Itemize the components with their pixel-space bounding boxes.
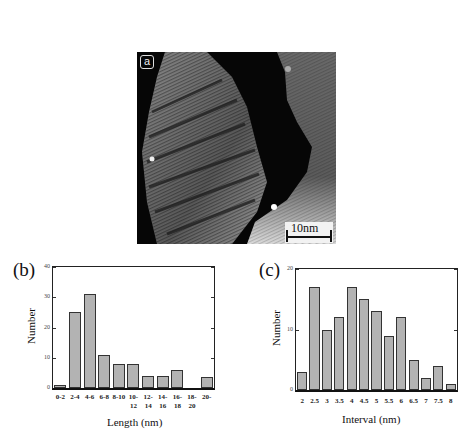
bar-3 [322,330,332,391]
ytick-label: 0 [36,384,50,390]
bar-20- [201,377,213,388]
bar-6-8 [98,355,110,388]
ytick-label: 10 [36,354,50,360]
scale-bar [287,236,331,238]
bar-5.5 [384,336,394,390]
bar-8-10 [113,364,125,388]
bar-2 [297,372,307,390]
bar-16-18 [171,370,183,388]
panel-c-xlabel: Interval (nm) [342,413,400,425]
scale-bar-cap-right [330,230,332,242]
xtick-label: 20- [195,393,219,402]
bar-14-16 [157,376,169,388]
stm-image: a 10nm [137,52,336,244]
bar-12-14 [142,376,154,388]
panel-c-label: (c) [259,259,280,281]
scale-bar-cap-left [286,230,288,242]
panel-b-xlabel: Length (nm) [107,416,162,428]
bar-6 [396,317,406,390]
panel-b-plot-area [52,266,215,390]
ytick-label: 40 [36,263,50,269]
bar-2.5 [309,287,319,390]
bar-4.5 [359,299,369,390]
ytick-label: 10 [279,326,293,332]
panel-b-label: (b) [13,259,35,281]
bar-4-6 [84,294,96,388]
bar-10-12 [127,364,139,388]
panel-a-label: a [140,55,154,69]
bar-5 [371,311,381,390]
bar-8 [446,384,456,390]
stm-topography-graphic [137,52,336,244]
ytick-label: 0 [279,386,293,392]
bar-2-4 [69,312,81,388]
bar-3.5 [334,317,344,390]
ytick-label: 20 [36,324,50,330]
bar-6.5 [409,360,419,390]
ytick-label: 30 [36,293,50,299]
ytick-label: 20 [279,265,293,271]
bar-7.5 [433,366,443,390]
bar-7 [421,378,431,390]
xtick-label: 8 [439,397,463,406]
bar-0-2 [54,385,66,388]
scale-bar-label: 10nm [291,221,318,236]
panel-c-plot-area [295,268,458,392]
bar-4 [347,287,357,390]
